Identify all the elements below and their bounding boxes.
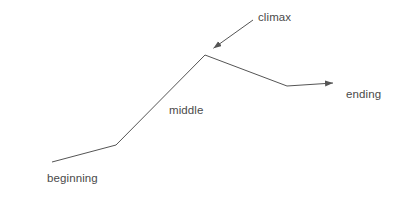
arc-canvas	[0, 0, 403, 200]
climax-pointer-line	[213, 20, 253, 48]
label-beginning: beginning	[47, 172, 98, 185]
label-ending: ending	[346, 88, 381, 101]
label-climax: climax	[258, 11, 291, 24]
label-middle: middle	[169, 104, 203, 117]
narrative-arc-diagram: beginning middle climax ending	[0, 0, 403, 200]
